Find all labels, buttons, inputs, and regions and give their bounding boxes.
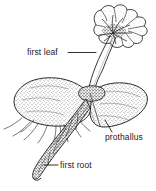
label-first-leaf: first leaf <box>27 48 58 57</box>
label-first-root: first root <box>60 161 92 170</box>
petiole-midline <box>93 40 113 88</box>
first-leaf-part <box>94 5 147 48</box>
label-prothallus: prothallus <box>105 133 143 142</box>
fern-sporeling-figure: first leaf prothallus first root <box>0 0 156 191</box>
